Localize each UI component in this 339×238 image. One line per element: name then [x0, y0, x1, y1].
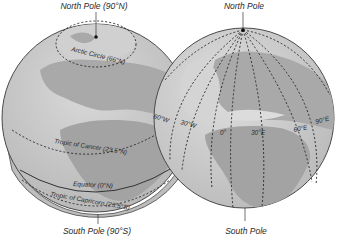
globes-diagram: North Pole (90°N) Arctic Circle (66°N) T… [0, 0, 339, 238]
left-south-pole-label: South Pole (90°S) [63, 226, 131, 236]
right-north-pole-label: North Pole [224, 1, 264, 11]
right-south-pole-label: South Pole [225, 226, 267, 236]
left-north-pole-label: North Pole (90°N) [60, 1, 127, 11]
north-pole-dot [94, 35, 98, 39]
right-globe: North Pole 60°W 30°W 0° 30°E 60°E 90°E S… [153, 1, 334, 236]
meridian-label-30e: 30°E [251, 129, 266, 136]
meridian-label-0: 0° [220, 129, 227, 136]
right-north-pole-dot [241, 28, 245, 32]
